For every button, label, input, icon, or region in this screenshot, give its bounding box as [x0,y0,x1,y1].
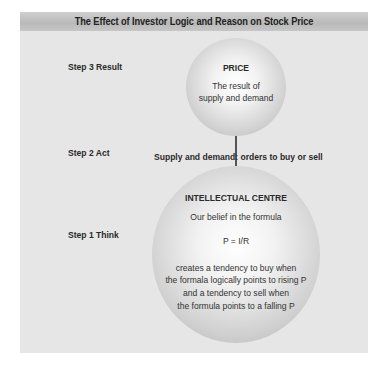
intellectual-centre-circle: INTELLECTUAL CENTRE Our belief in the fo… [152,166,320,343]
formula: P = I/R [160,235,311,246]
tendency-line-3: and a tendency to sell when [160,287,311,298]
intellectual-heading: INTELLECTUAL CENTRE [160,192,311,203]
title-bar: The Effect of Investor Logic and Reason … [20,12,368,31]
tendency-line-4: the formula points to a falling P [160,300,311,311]
step-2-label: Step 2 Act [68,147,109,158]
price-line-1: The result of [191,80,281,91]
tendency-line-1: creates a tendency to buy when [160,262,311,273]
diagram-title: The Effect of Investor Logic and Reason … [41,15,347,27]
belief-line: Our belief in the formula [160,211,311,222]
price-line-2: supply and demand [191,92,281,103]
price-heading: PRICE [191,62,281,73]
step-3-label: Step 3 Result [68,61,122,72]
price-circle: PRICE The result of supply and demand [186,38,286,136]
diagram-panel: The Effect of Investor Logic and Reason … [20,12,368,353]
act-description: Supply and demand: orders to buy or sell [154,151,323,162]
step-1-label: Step 1 Think [68,229,119,240]
tendency-line-2: the formala logically points to rising P [160,274,311,285]
